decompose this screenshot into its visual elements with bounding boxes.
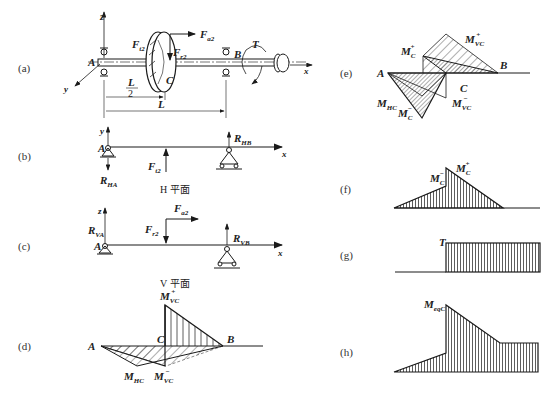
force-Fr2-label: Fr2: [144, 223, 159, 238]
point-B-label: B: [499, 59, 507, 71]
x-axis-label: x: [277, 248, 283, 258]
force-Ft2-label: Ft2: [131, 38, 145, 53]
panel-g-torque-diagram: (g) T: [340, 236, 540, 272]
moment-MC-minus-label: MC−: [429, 170, 445, 187]
moment-MC-plus-label: MC+: [400, 43, 416, 60]
moment-MVC-plus-label: MVC+: [159, 288, 179, 305]
reaction-RVA-label: RVA: [87, 224, 104, 239]
h-plane-caption: H 平面: [160, 184, 190, 195]
moment-MHC-label: MHC: [123, 370, 144, 385]
panel-label-a: (a): [18, 62, 31, 75]
x-axis-label: x: [303, 66, 309, 76]
point-C-label: C: [460, 82, 468, 94]
torque-T-label: T: [252, 38, 260, 50]
panel-label-e: (e): [340, 67, 353, 80]
panel-label-f: (f): [340, 183, 351, 196]
dimension-half-L-numerator: L: [127, 76, 135, 88]
z-axis-label: z: [97, 206, 102, 216]
shaft-analysis-figure: (a) z y x A B C Ft2 Fr2 Fa2: [0, 0, 557, 397]
reaction-RHB-label: RHB: [233, 132, 252, 147]
moment-MC-minus-label: MC−: [397, 105, 413, 122]
moment-MeqC-label: MeqC: [423, 298, 445, 313]
point-A-label: A: [97, 142, 105, 154]
reaction-RHA-label: RHA: [99, 174, 118, 189]
force-Fa2-label: Fa2: [199, 28, 215, 43]
force-Fa2-label: Fa2: [173, 202, 189, 217]
panel-label-b: (b): [18, 150, 31, 163]
panel-d-moment-diagrams: (d) A C B MVC+ MHC MVC−: [18, 288, 263, 385]
moment-MVC-minus-label: MVC−: [153, 368, 173, 385]
panel-c-v-plane: (c) z RVA x A Fr2 Fa2 RVB V 平面: [18, 202, 283, 289]
panel-b-h-plane: (b) y x A RHA Ft2 RHB H 平面: [18, 126, 287, 195]
panel-f-resultant-moment: (f) MC− MC+: [340, 160, 540, 208]
moment-MHC-label: MHC: [376, 97, 397, 112]
panel-a-shaft-sketch: (a) z y x A B C Ft2 Fr2 Fa2: [18, 10, 312, 118]
point-A-label: A: [93, 240, 101, 252]
point-B-label: B: [233, 48, 241, 60]
point-C-label: C: [157, 333, 165, 345]
point-B-label: B: [226, 333, 234, 345]
panel-label-g: (g): [340, 249, 353, 262]
point-A-label: A: [87, 340, 95, 352]
force-Ft2-label: Ft2: [147, 160, 161, 175]
panel-h-equivalent-moment: (h) MeqC: [340, 298, 538, 372]
point-A-label: A: [87, 56, 95, 68]
dimension-half-L-denominator: 2: [128, 88, 133, 99]
z-axis-label: z: [99, 10, 105, 22]
y-axis-label: y: [63, 84, 69, 94]
panel-label-d: (d): [18, 340, 31, 353]
point-A-label: A: [376, 67, 384, 79]
panel-label-c: (c): [18, 240, 31, 253]
panel-label-h: (h): [340, 346, 353, 359]
moment-MVC-plus-label: MVC+: [464, 31, 484, 48]
moment-MC-plus-label: MC+: [455, 160, 471, 177]
panel-e-combined-3d-moment: (e) A B C MC+ MVC+ MHC MC− MVC−: [340, 31, 530, 122]
moment-MVC-minus-label: MVC−: [451, 95, 471, 112]
y-axis-label: y: [99, 126, 105, 136]
dimension-L-label: L: [157, 98, 165, 110]
x-axis-label: x: [281, 149, 287, 159]
point-C-label: C: [166, 74, 174, 86]
